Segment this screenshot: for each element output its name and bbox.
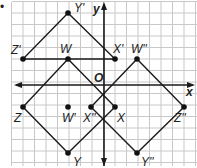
label-ypp: Y'' [141, 155, 154, 168]
point-wp [65, 104, 71, 110]
point-w [65, 56, 71, 62]
point-x [112, 104, 118, 110]
axes [14, 2, 195, 166]
point-wpp [134, 56, 140, 62]
label-xpp: X'' [82, 111, 96, 125]
x-axis-label: x [185, 85, 194, 99]
label-wpp: W'' [131, 42, 148, 56]
point-zpp [181, 104, 187, 110]
label-y: Y [73, 155, 82, 168]
label-x: X [116, 111, 126, 125]
point-ypp [134, 150, 140, 156]
label-zpp: Z'' [173, 111, 187, 125]
point-zp [20, 56, 26, 62]
y-axis-arrow-up-icon [101, 2, 107, 10]
y-axis-label: y [92, 2, 101, 16]
point-xpp [88, 104, 94, 110]
point-xp [112, 56, 118, 62]
origin-label: O [94, 71, 104, 85]
point-y [65, 150, 71, 156]
point-z [20, 104, 26, 110]
x-axis-arrow-left-icon [14, 82, 22, 88]
bullet-marker: • [0, 0, 4, 14]
label-z: Z [13, 111, 22, 125]
point-yp [65, 10, 71, 16]
label-w: W [60, 42, 73, 56]
label-xp: X' [112, 42, 124, 56]
label-wp: W' [62, 111, 76, 125]
label-zp: Z' [10, 43, 21, 57]
label-yp: Y' [74, 1, 85, 15]
coordinate-grid-diagram: Y'Z'WX'W''ZW'X''XZ''YY'' • y x O [0, 0, 197, 168]
